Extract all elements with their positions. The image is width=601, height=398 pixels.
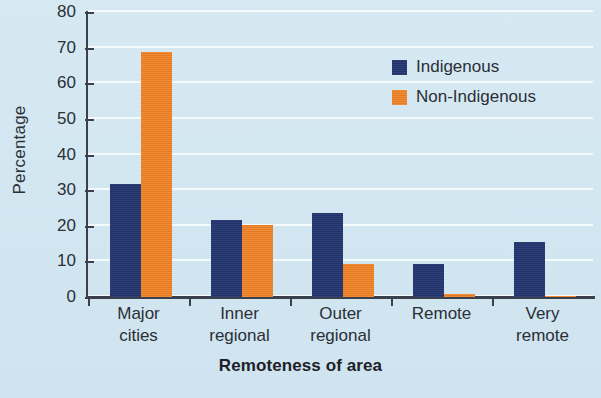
- bar-non-indigenous[interactable]: [141, 52, 172, 297]
- x-tick-separator: [88, 296, 90, 306]
- x-tick-label: Innerregional: [190, 303, 290, 347]
- y-axis-title-label: Percentage: [10, 106, 30, 195]
- y-tick-label: 50: [30, 109, 76, 129]
- x-tick-label: Outerregional: [291, 303, 391, 347]
- x-tick-label: Remote: [392, 303, 492, 325]
- y-tick-label: 10: [30, 251, 76, 271]
- x-tick-label: Veryremote: [493, 303, 593, 347]
- legend-label: Non-Indigenous: [416, 87, 536, 107]
- y-tick-label: 0: [30, 287, 76, 307]
- x-tick-label-line1: Outer: [319, 304, 362, 323]
- y-axis-ticks: 01020304050607080: [30, 12, 76, 297]
- x-tick-separator: [189, 296, 191, 306]
- bar-non-indigenous[interactable]: [444, 294, 475, 297]
- x-tick-label-line1: Major: [117, 304, 160, 323]
- bar-group: [110, 12, 172, 297]
- x-tick-label-line2: cities: [89, 325, 189, 347]
- y-tick-label: 80: [30, 2, 76, 22]
- y-tick-label: 70: [30, 38, 76, 58]
- bar-group: [211, 12, 273, 297]
- bar-chart: Percentage 01020304050607080 Majorcities…: [0, 0, 601, 398]
- legend-label: Indigenous: [416, 57, 499, 77]
- legend: IndigenousNon-Indigenous: [392, 52, 536, 112]
- x-axis-ticks: MajorcitiesInnerregionalOuterregionalRem…: [88, 303, 593, 355]
- x-tick-label-line1: Very: [525, 304, 559, 323]
- bar-indigenous[interactable]: [312, 213, 343, 297]
- bar-indigenous[interactable]: [413, 264, 444, 297]
- bar-non-indigenous[interactable]: [242, 225, 273, 297]
- bar-non-indigenous[interactable]: [545, 296, 576, 298]
- x-axis-title: Remoteness of area: [0, 356, 601, 376]
- bar-group: [312, 12, 374, 297]
- bar-indigenous[interactable]: [110, 184, 141, 297]
- legend-item-indigenous[interactable]: Indigenous: [392, 52, 536, 82]
- y-tick-label: 60: [30, 73, 76, 93]
- x-tick-separator: [290, 296, 292, 306]
- legend-swatch-icon: [392, 90, 407, 105]
- legend-swatch-icon: [392, 60, 407, 75]
- y-tick-label: 40: [30, 145, 76, 165]
- legend-item-non-indigenous[interactable]: Non-Indigenous: [392, 82, 536, 112]
- x-tick-separator: [492, 296, 494, 306]
- y-tick-label: 20: [30, 216, 76, 236]
- y-tick-label: 30: [30, 180, 76, 200]
- bar-indigenous[interactable]: [514, 242, 545, 297]
- x-tick-label: Majorcities: [89, 303, 189, 347]
- x-tick-label-line1: Remote: [412, 304, 472, 323]
- x-tick-label-line2: remote: [493, 325, 593, 347]
- x-tick-label-line1: Inner: [220, 304, 259, 323]
- x-tick-label-line2: regional: [190, 325, 290, 347]
- bar-indigenous[interactable]: [211, 220, 242, 297]
- bar-non-indigenous[interactable]: [343, 264, 374, 297]
- x-tick-label-line2: regional: [291, 325, 391, 347]
- x-tick-separator: [391, 296, 393, 306]
